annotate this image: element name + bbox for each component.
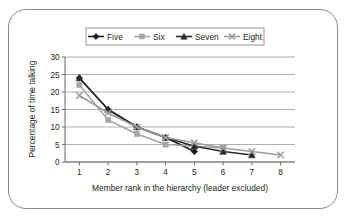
y-tick-label: 30 — [50, 53, 60, 62]
y-axis-title: Percentage of time talking — [27, 60, 37, 157]
x-tick-label: 7 — [250, 168, 255, 177]
y-tick-label: 10 — [50, 123, 60, 132]
x-tick-label: 4 — [163, 168, 168, 177]
line-chart: 051015202530 12345678 Member rank in the… — [0, 0, 349, 220]
y-tick-label: 0 — [55, 158, 60, 167]
x-tick-label: 8 — [278, 168, 283, 177]
legend-label: Seven — [195, 32, 219, 42]
x-tick-label: 5 — [192, 168, 197, 177]
legend: FiveSixSevenEight — [86, 28, 264, 45]
chart-canvas: 051015202530 12345678 Member rank in the… — [0, 0, 349, 220]
x-tick-label: 2 — [106, 168, 111, 177]
square-marker-icon — [106, 117, 111, 122]
legend-label: Eight — [243, 32, 263, 42]
square-marker-icon — [77, 82, 82, 87]
square-marker-icon — [134, 131, 139, 136]
y-tick-label: 20 — [50, 88, 60, 97]
legend-label: Six — [153, 32, 165, 42]
x-axis-title: Member rank in the hierarchy (leader exc… — [92, 183, 268, 193]
x-tick-label: 6 — [221, 168, 226, 177]
x-tick-label: 3 — [135, 168, 140, 177]
square-marker-icon — [140, 34, 145, 39]
legend-label: Five — [107, 32, 123, 42]
x-axis-ticks: 12345678 — [77, 162, 283, 177]
y-tick-label: 15 — [50, 106, 60, 115]
x-tick-label: 1 — [77, 168, 82, 177]
y-tick-label: 25 — [50, 71, 60, 80]
square-marker-icon — [163, 142, 168, 147]
y-tick-label: 5 — [55, 141, 60, 150]
y-axis-ticks: 051015202530 — [50, 53, 65, 167]
